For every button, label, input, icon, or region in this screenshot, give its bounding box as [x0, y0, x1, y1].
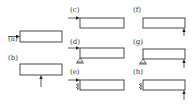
arrow-head-icon — [182, 28, 185, 32]
beam — [20, 31, 62, 42]
beam — [20, 64, 62, 75]
panel-c: (c) — [68, 6, 124, 28]
pin-support-icon — [140, 59, 146, 63]
arrow-head-icon — [182, 90, 185, 94]
beam — [80, 80, 124, 90]
panel-label: (b) — [8, 54, 18, 62]
panel-label: (h) — [133, 68, 143, 76]
panel-e: (e) — [68, 68, 124, 90]
beam — [143, 18, 185, 28]
arrow-head-icon — [76, 16, 80, 19]
beam-loading-diagram: (a) (b) (c) (d) (e) (f) — [0, 0, 196, 106]
panel-label: (d) — [70, 38, 80, 46]
panel-a: (a) — [8, 31, 62, 43]
panel-d: (d) — [68, 38, 124, 63]
beam — [80, 48, 124, 58]
panel-label: (f) — [133, 6, 141, 14]
panel-label: (c) — [70, 6, 80, 14]
beam — [143, 80, 185, 90]
beam — [143, 49, 185, 59]
arrow-head-icon — [182, 59, 185, 63]
pin-support-icon — [77, 58, 83, 62]
panel-h: (h) — [133, 68, 186, 100]
panel-label: (g) — [133, 38, 143, 46]
beam — [80, 18, 124, 28]
arrow-head-icon — [76, 46, 80, 49]
arrow-head-icon — [39, 75, 42, 79]
arrow-head-icon — [16, 35, 20, 38]
arrow-head-icon — [76, 78, 80, 81]
panel-label: (e) — [70, 68, 80, 76]
panel-b: (b) — [8, 54, 62, 87]
panel-f: (f) — [133, 6, 186, 36]
panel-g: (g) — [133, 38, 186, 68]
